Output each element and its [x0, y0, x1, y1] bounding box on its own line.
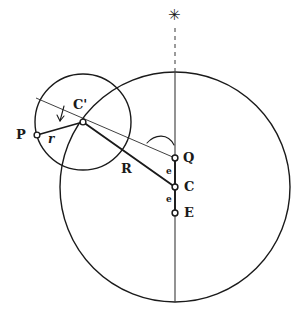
label-p: P: [16, 128, 26, 141]
label-r-big: R: [121, 162, 132, 175]
label-q: Q: [183, 151, 194, 164]
diagram-canvas: [0, 0, 299, 318]
label-e-upper: e: [166, 167, 172, 176]
point-e-earth: [172, 210, 178, 216]
angle-arc-at-q: [147, 136, 174, 145]
label-c: C: [184, 180, 194, 193]
label-e-point: E: [184, 206, 194, 219]
point-q-equant: [172, 155, 178, 161]
geometric-diagram: ✳ C' P r R Q C e e E: [0, 0, 299, 318]
point-p: [34, 132, 40, 138]
label-r-small: r: [48, 133, 54, 145]
epicycle-apse-line: [36, 98, 175, 158]
label-c-prime: C': [73, 98, 87, 111]
point-c-prime: [80, 119, 86, 125]
label-e-lower: e: [166, 195, 172, 204]
star-icon: ✳: [168, 8, 181, 23]
deferent-radius-R: [83, 122, 175, 187]
point-c-center: [172, 184, 178, 190]
